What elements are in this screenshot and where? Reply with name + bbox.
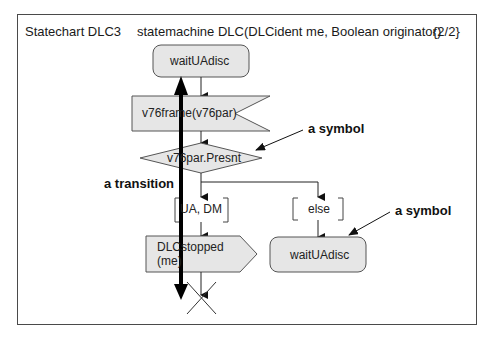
annotation-pointer-lower — [349, 212, 390, 235]
annotation-transition: a transition — [104, 176, 174, 191]
annotation-symbol-lower: a symbol — [395, 203, 451, 218]
state-top-label: waitUAdisc — [170, 54, 229, 68]
answer-right-label: else — [308, 202, 330, 216]
annotation-symbol-upper: a symbol — [308, 121, 364, 136]
state-right-label: waitUAdisc — [290, 248, 349, 262]
output-label-line2: (me) — [157, 254, 182, 268]
output-label-line1: DLCstopped — [157, 240, 224, 254]
annotation-pointer-upper — [256, 130, 303, 150]
decision-label: v76par.Presnt — [167, 151, 241, 165]
input-signal-label: v76frame(v76par) — [142, 106, 237, 120]
answer-left-label: UA, DM — [180, 202, 222, 216]
statechart-canvas — [0, 0, 492, 341]
